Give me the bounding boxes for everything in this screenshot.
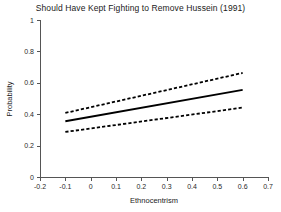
x-tick-label: 0.6 (238, 183, 248, 190)
x-axis-title: Ethnocentrism (130, 196, 178, 205)
x-axis: -0.2-0.100.10.20.30.40.50.60.7 (34, 177, 273, 190)
x-tick-label: 0.3 (162, 183, 172, 190)
y-tick-label: 0.4 (24, 111, 34, 118)
y-tick-label: 0 (30, 174, 34, 181)
y-tick-label: 1 (30, 17, 34, 24)
plot-area: 00.20.40.60.81 -0.2-0.100.10.20.30.40.50… (0, 0, 281, 212)
confidence-band-line (65, 73, 242, 113)
y-axis: 00.20.40.60.81 (24, 17, 40, 181)
y-tick-label: 0.2 (24, 142, 34, 149)
y-tick-labels: 00.20.40.60.81 (24, 17, 34, 181)
x-tick-label: 0.5 (212, 183, 222, 190)
y-axis-title: Probability (5, 81, 14, 116)
data-series-group (65, 73, 242, 132)
y-tick-marks (37, 21, 41, 178)
y-tick-label: 0.6 (24, 79, 34, 86)
x-tick-label: 0.7 (263, 183, 273, 190)
x-tick-label: -0.1 (59, 183, 71, 190)
chart-figure: Should Have Kept Fighting to Remove Huss… (0, 0, 281, 212)
x-tick-label: 0 (89, 183, 93, 190)
confidence-band-line (65, 108, 242, 132)
x-tick-label: 0.1 (111, 183, 121, 190)
x-tick-labels: -0.2-0.100.10.20.30.40.50.60.7 (34, 183, 273, 190)
fit-line (65, 90, 242, 121)
x-tick-label: 0.2 (136, 183, 146, 190)
x-tick-label: 0.4 (187, 183, 197, 190)
y-tick-label: 0.8 (24, 48, 34, 55)
x-tick-label: -0.2 (34, 183, 46, 190)
